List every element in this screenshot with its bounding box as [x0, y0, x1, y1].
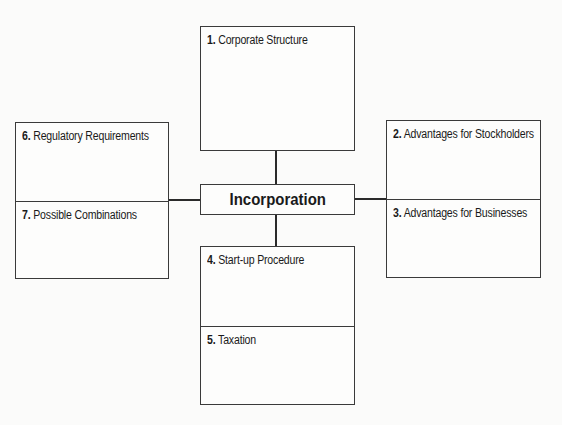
section-title: Advantages for Stockholders	[404, 127, 534, 141]
section-number: 3.	[393, 206, 401, 220]
section-3: 3. Advantages for Businesses	[387, 199, 540, 277]
section-label: 5. Taxation	[207, 333, 256, 347]
section-5: 5. Taxation	[201, 326, 354, 404]
section-number: 1.	[207, 33, 215, 47]
section-number: 6.	[22, 129, 30, 143]
section-title: Advantages for Businesses	[404, 206, 528, 220]
box-bottom: 4. Start-up Procedure 5. Taxation	[200, 246, 355, 405]
box-left: 6. Regulatory Requirements 7. Possible C…	[15, 122, 169, 279]
connector-left	[168, 199, 200, 201]
section-label: 3. Advantages for Businesses	[393, 206, 527, 220]
section-number: 2.	[393, 127, 401, 141]
section-number: 4.	[207, 253, 215, 267]
section-7: 7. Possible Combinations	[16, 201, 168, 278]
section-title: Taxation	[218, 333, 256, 347]
connector-bottom	[275, 215, 277, 246]
section-4: 4. Start-up Procedure	[201, 247, 354, 326]
section-number: 7.	[22, 208, 30, 222]
section-title: Corporate Structure	[218, 33, 307, 47]
central-topic-label: Incorporation	[229, 190, 325, 210]
section-label: 1. Corporate Structure	[207, 33, 308, 47]
section-number: 5.	[207, 333, 215, 347]
section-1: 1. Corporate Structure	[201, 27, 354, 150]
section-title: Regulatory Requirements	[33, 129, 149, 143]
connector-right	[355, 198, 386, 200]
section-label: 7. Possible Combinations	[22, 208, 137, 222]
section-6: 6. Regulatory Requirements	[16, 123, 168, 201]
box-right: 2. Advantages for Stockholders 3. Advant…	[386, 120, 541, 278]
section-title: Possible Combinations	[33, 208, 137, 222]
section-label: 4. Start-up Procedure	[207, 253, 304, 267]
section-label: 2. Advantages for Stockholders	[393, 127, 534, 141]
section-title: Start-up Procedure	[218, 253, 304, 267]
connector-top	[275, 151, 277, 184]
section-2: 2. Advantages for Stockholders	[387, 121, 540, 199]
box-corporate-structure: 1. Corporate Structure	[200, 26, 355, 151]
central-topic: Incorporation	[200, 184, 355, 215]
section-label: 6. Regulatory Requirements	[22, 129, 149, 143]
